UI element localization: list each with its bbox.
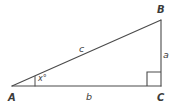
vertex-label-c: C: [157, 93, 164, 103]
side-label-a: a: [163, 50, 169, 60]
side-label-b: b: [86, 92, 92, 102]
vertex-label-a: A: [8, 93, 16, 103]
triangle-diagram: A B C a b c x°: [0, 0, 177, 110]
vertex-label-b: B: [157, 5, 165, 15]
right-angle-square-icon: [147, 72, 161, 86]
angle-label-x: x°: [38, 75, 47, 83]
side-label-c: c: [79, 44, 84, 54]
side-c-hypotenuse-line: [12, 20, 161, 86]
